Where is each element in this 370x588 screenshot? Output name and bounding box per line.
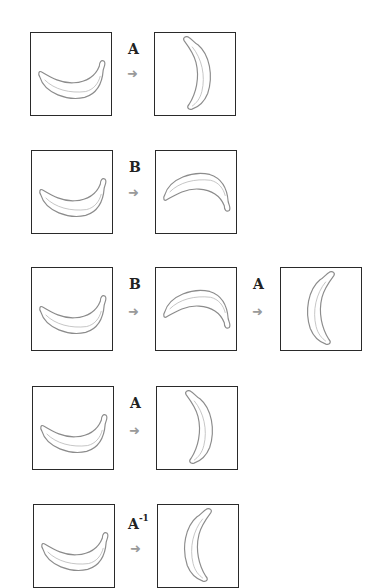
banana-smile-icon	[34, 505, 114, 587]
row3-arrow1-icon: ➜	[128, 305, 139, 318]
banana-smile-icon	[32, 268, 112, 350]
banana-rotated-left-icon	[281, 268, 361, 350]
row2-transform-label: B	[129, 160, 141, 174]
row5-result-panel	[157, 504, 239, 588]
row3-arrow2-icon: ➜	[252, 305, 263, 318]
banana-rotated-left-icon	[158, 505, 238, 587]
row1-source-panel	[30, 32, 112, 116]
banana-smile-icon	[31, 33, 111, 115]
banana-arch-icon	[156, 151, 236, 233]
row3-transform2-label: A	[253, 277, 264, 291]
row4-transform-label: A	[130, 396, 141, 410]
banana-rotated-right-icon	[155, 33, 235, 115]
row2-source-panel	[31, 150, 113, 234]
row3-result-panel	[280, 267, 362, 351]
row5-arrow-icon: ➜	[130, 542, 141, 555]
row4-source-panel	[32, 386, 114, 470]
row5-source-panel	[33, 504, 115, 588]
banana-smile-icon	[33, 387, 113, 469]
row3-source-panel	[31, 267, 113, 351]
row3-middle-panel	[155, 267, 237, 351]
row4-result-panel	[156, 386, 238, 470]
row1-result-panel	[154, 32, 236, 116]
row1-arrow-icon: ➜	[127, 67, 138, 80]
banana-smile-icon	[32, 151, 112, 233]
banana-arch-icon	[156, 268, 236, 350]
row4-arrow-icon: ➜	[129, 424, 140, 437]
banana-rotated-right-icon	[157, 387, 237, 469]
row1-transform-label: A	[128, 42, 139, 56]
row5-transform-label: A-1	[128, 513, 149, 531]
row3-transform1-label: B	[129, 277, 141, 291]
row2-arrow-icon: ➜	[128, 186, 139, 199]
row2-result-panel	[155, 150, 237, 234]
